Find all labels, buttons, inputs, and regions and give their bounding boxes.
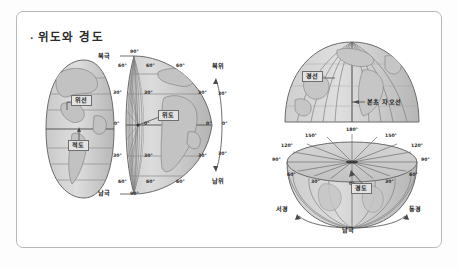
deg-rim-0: 60° (176, 64, 185, 69)
title-text: 위도와 경도 (38, 30, 104, 44)
top-right-globe-figure: 경선 본초 자오선 (277, 38, 427, 130)
label-south-pole-bottom: 남극 (342, 227, 355, 233)
page-title: ·위도와 경도 (30, 28, 104, 44)
label-west-longitude: 서경 (276, 206, 289, 212)
deg-top-5: 120° (411, 144, 423, 149)
deg-inner-5: 60° (146, 180, 155, 185)
deg-top-4: 150° (385, 134, 397, 139)
middle-globe-figure: 북극 남극 위도 북위 남위 90° 60° 30° 0° 30° 60° 90… (118, 50, 228, 200)
deg-top-2: 150° (305, 134, 317, 139)
deg-eq-4: 60° (409, 173, 418, 178)
deg-left-2: 30° (113, 91, 122, 96)
label-north-pole-middle: 북극 (98, 53, 111, 59)
label-south-pole-middle: 남극 (98, 190, 111, 196)
label-north-latitude: 북위 (212, 63, 225, 69)
deg-left-5: 60° (118, 180, 127, 185)
deg-inner-3: 0° (144, 122, 150, 127)
deg-inner-1: 60° (146, 64, 155, 69)
deg-top-0: 90° (272, 158, 281, 163)
deg-arc-1: 0° (222, 122, 228, 127)
deg-eq-1: 30° (311, 180, 320, 185)
left-globe-svg (38, 58, 118, 200)
deg-top-3: 180° (346, 128, 358, 133)
deg-top-1: 120° (281, 144, 293, 149)
deg-left-6: 90° (130, 192, 139, 197)
label-east-longitude: 동경 (409, 206, 422, 212)
deg-eq-3: 30° (385, 180, 394, 185)
label-prime-meridian: 본초 자오선 (367, 99, 402, 105)
deg-rim-3: 30° (198, 154, 207, 159)
label-equator: 적도 (68, 140, 89, 151)
left-globe-figure: 위선 적도 (38, 58, 118, 200)
deg-rim-1: 30° (198, 91, 207, 96)
deg-top-6: 90° (421, 158, 430, 163)
label-parallel: 위선 (71, 95, 92, 106)
label-latitude: 위도 (158, 110, 179, 121)
deg-arc-2: 30° (218, 152, 227, 157)
label-south-latitude: 남위 (212, 178, 225, 184)
deg-inner-4: 30° (144, 154, 153, 159)
deg-left-1: 60° (118, 64, 127, 69)
deg-rim-4: 60° (176, 180, 185, 185)
deg-left-4: 30° (113, 154, 122, 159)
deg-inner-2: 30° (144, 91, 153, 96)
label-longitude: 경도 (351, 183, 372, 194)
deg-left-0: 90° (130, 50, 139, 55)
label-meridian: 경선 (302, 71, 323, 82)
top-right-globe-svg (277, 38, 427, 130)
diagram-page: ·위도와 경도 (0, 0, 458, 268)
deg-eq-0: 60° (287, 173, 296, 178)
deg-rim-2: 0° (206, 122, 212, 127)
bottom-right-globe-figure: 경도 서경 동경 남극 90° 120° 150° 180° 150° 120°… (263, 128, 441, 238)
deg-left-3: 0° (114, 122, 120, 127)
title-bullet: · (30, 33, 35, 43)
deg-arc-0: 30° (218, 92, 227, 97)
